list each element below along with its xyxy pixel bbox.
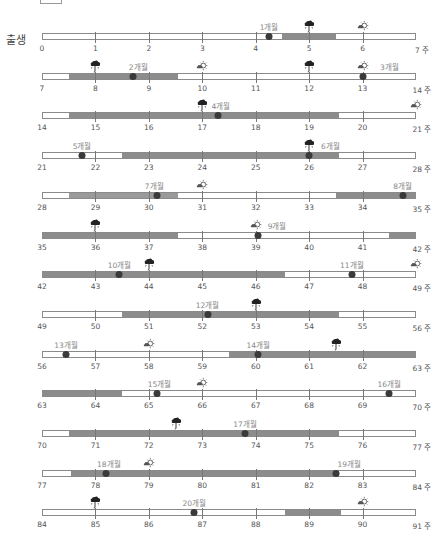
month-label: 19개월 xyxy=(337,458,361,469)
week-tick xyxy=(309,270,310,281)
cloud-rain-icon xyxy=(330,336,342,350)
week-label: 7 주 xyxy=(415,44,429,55)
milestone-dot xyxy=(79,152,86,159)
week-tick xyxy=(149,350,150,361)
cloud-rain-icon xyxy=(303,58,315,72)
week-tick xyxy=(95,191,96,202)
week-tick xyxy=(95,151,96,162)
week-tick xyxy=(95,111,96,122)
milestone-dot xyxy=(153,192,160,199)
highlight-segment xyxy=(69,113,339,118)
week-label: 51 xyxy=(144,322,154,331)
week-label: 61 xyxy=(304,362,314,371)
timeline-row: 2122232425262728 주5개월6개월 xyxy=(0,152,446,192)
cloud-rain-icon xyxy=(89,58,101,72)
week-label: 35 주 xyxy=(413,203,432,214)
week-label: 14 주 xyxy=(413,84,432,95)
week-tick xyxy=(95,310,96,321)
week-label: 2 xyxy=(146,44,151,53)
month-label: 14개월 xyxy=(247,339,271,350)
sun-cloud-icon xyxy=(250,217,262,231)
week-tick xyxy=(309,111,310,122)
week-tick xyxy=(256,151,257,162)
header-box-fragment xyxy=(40,0,62,4)
week-label: 54 xyxy=(304,322,314,331)
week-tick xyxy=(95,429,96,440)
week-label: 16 xyxy=(144,123,154,132)
week-label: 71 xyxy=(91,441,101,450)
timeline-bar xyxy=(42,112,416,119)
month-label: 18개월 xyxy=(97,458,121,469)
sun-cloud-icon xyxy=(357,494,369,508)
week-label: 0 xyxy=(40,44,45,53)
week-label: 22 xyxy=(91,163,101,172)
week-label: 84 주 xyxy=(413,481,432,492)
week-label: 29 xyxy=(91,203,101,212)
week-label: 19 xyxy=(304,123,314,132)
week-label: 34 xyxy=(358,203,368,212)
month-label: 7개월 xyxy=(145,180,164,191)
week-tick xyxy=(363,270,364,281)
week-tick xyxy=(309,508,310,519)
week-tick xyxy=(202,111,203,122)
week-label: 82 xyxy=(304,481,314,490)
week-label: 80 xyxy=(198,481,208,490)
week-tick xyxy=(363,469,364,480)
timeline-row: 7071727374757677 주17개월 xyxy=(0,430,446,470)
week-tick xyxy=(95,231,96,242)
week-tick xyxy=(256,32,257,43)
week-label: 60 xyxy=(251,362,261,371)
timeline-bar xyxy=(42,271,416,278)
week-tick xyxy=(363,429,364,440)
week-tick xyxy=(149,310,150,321)
highlight-segment xyxy=(42,272,285,277)
week-label: 84 xyxy=(37,520,47,529)
timeline-row: 4243444546474849 주10개월11개월 xyxy=(0,271,446,311)
week-label: 41 xyxy=(358,243,368,252)
timeline-bar xyxy=(42,33,416,40)
timeline-row: 7778798081828384 주18개월19개월 xyxy=(0,470,446,510)
week-label: 39 xyxy=(251,243,261,252)
week-tick xyxy=(202,191,203,202)
week-tick xyxy=(309,389,310,400)
week-label: 53 xyxy=(251,322,261,331)
week-tick xyxy=(202,310,203,321)
month-label: 4개월 xyxy=(212,100,231,111)
cloud-rain-icon xyxy=(89,217,101,231)
week-label: 21 xyxy=(37,163,47,172)
week-label: 91 주 xyxy=(413,520,432,531)
timeline-row: 6364656667686970 주15개월16개월 xyxy=(0,390,446,430)
week-label: 14 xyxy=(37,123,47,132)
week-label: 31 xyxy=(198,203,208,212)
week-label: 70 주 xyxy=(413,401,432,412)
month-label: 12개월 xyxy=(196,299,220,310)
week-tick xyxy=(256,389,257,400)
week-tick xyxy=(95,508,96,519)
week-label: 79 xyxy=(144,481,154,490)
week-tick xyxy=(149,111,150,122)
week-tick xyxy=(149,72,150,83)
week-label: 20 xyxy=(358,123,368,132)
week-label: 86 xyxy=(144,520,154,529)
week-label: 72 xyxy=(144,441,154,450)
week-tick xyxy=(95,270,96,281)
sun-cloud-icon xyxy=(357,18,369,32)
week-tick xyxy=(149,151,150,162)
week-label: 33 xyxy=(304,203,314,212)
week-tick xyxy=(202,389,203,400)
sun-cloud-icon xyxy=(143,336,155,350)
week-label: 81 xyxy=(251,481,261,490)
cloud-rain-icon xyxy=(303,137,315,151)
week-tick xyxy=(202,151,203,162)
week-tick xyxy=(95,72,96,83)
week-tick xyxy=(256,508,257,519)
week-tick xyxy=(149,469,150,480)
milestone-dot xyxy=(359,73,366,80)
week-label: 63 xyxy=(37,401,47,410)
milestone-dot xyxy=(306,152,313,159)
week-tick xyxy=(256,72,257,83)
week-tick xyxy=(256,111,257,122)
month-label: 20개월 xyxy=(182,497,206,508)
week-tick xyxy=(309,429,310,440)
milestone-dot xyxy=(191,509,198,516)
